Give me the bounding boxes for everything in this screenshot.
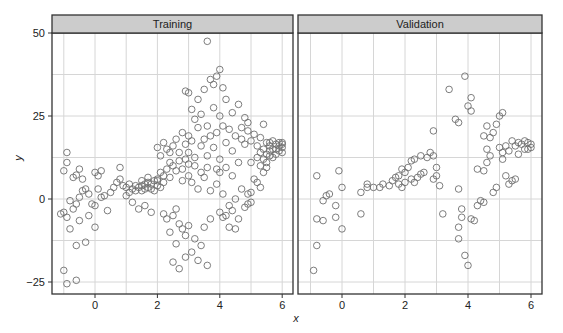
x-tick-label: 4: [217, 299, 223, 311]
x-tick-label: 0: [339, 299, 345, 311]
x-tick-label: 6: [279, 299, 285, 311]
x-tick-label: 6: [528, 299, 534, 311]
x-tick-label: 0: [92, 299, 98, 311]
strip-label: Validation: [396, 18, 444, 30]
strip-label: Training: [153, 18, 192, 30]
panel-validation: Validation: [298, 15, 542, 294]
y-axis-label: y: [12, 154, 24, 162]
x-tick-label: 2: [154, 299, 160, 311]
x-tick-label: 2: [402, 299, 408, 311]
y-tick-label: 25: [33, 110, 45, 122]
y-tick-label: −25: [26, 276, 45, 288]
x-axis-label: x: [292, 312, 299, 324]
x-tick-label: 4: [465, 299, 471, 311]
y-tick-label: 0: [39, 193, 45, 205]
scatter-chart: TrainingValidation 02460246−2502550 x y: [0, 0, 563, 333]
y-tick-label: 50: [33, 27, 45, 39]
panel-training: Training: [52, 15, 293, 294]
